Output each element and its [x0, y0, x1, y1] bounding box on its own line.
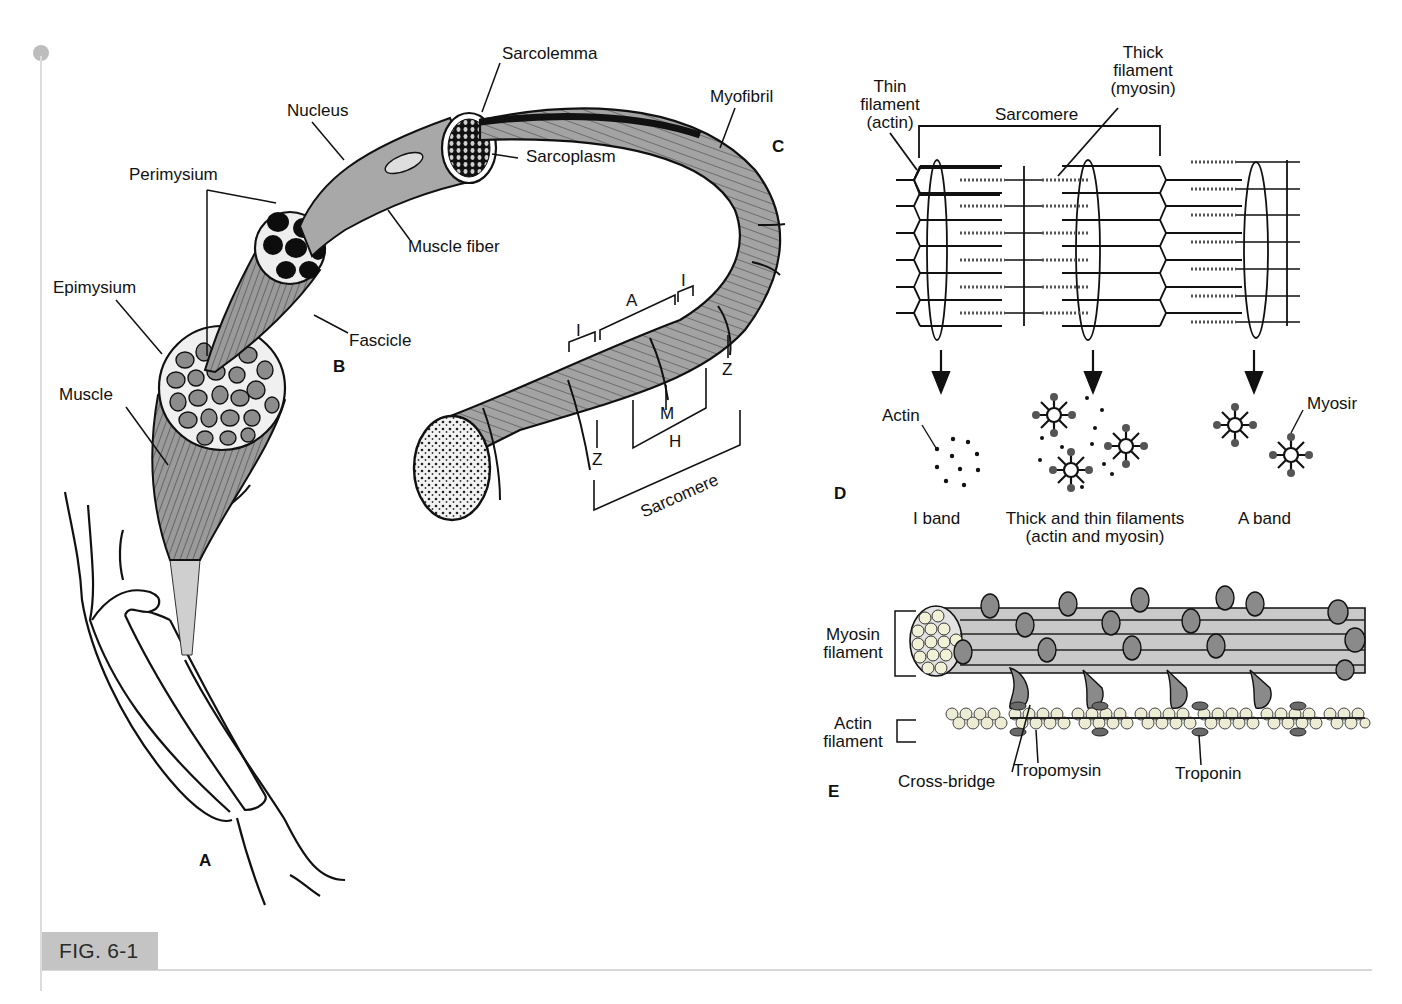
myosin-filament-line2: filament	[815, 644, 891, 662]
panel-letter-d: D	[834, 484, 846, 504]
tendon	[170, 560, 200, 655]
label-fascicle: Fascicle	[349, 332, 411, 350]
label-actin-filament: Actin filament	[815, 715, 891, 751]
myosin-filament-line1: Myosin	[815, 626, 891, 644]
label-tropomyosin: Tropomysin	[1013, 762, 1101, 780]
panel-letter-e: E	[828, 782, 839, 802]
thin-filament-line3: (actin)	[850, 114, 930, 132]
label-sarcoplasm: Sarcoplasm	[526, 148, 616, 166]
thick-filament-line2: filament	[1100, 62, 1186, 80]
thick-filament-cores	[1005, 162, 1300, 322]
label-thick-filament: Thick filament (myosin)	[1100, 44, 1186, 98]
panel-letter-b: B	[333, 357, 345, 377]
label-overlap-zone: Thick and thin filaments (actin and myos…	[990, 510, 1200, 546]
label-a-band: A	[626, 292, 637, 310]
band-arrows	[933, 350, 1262, 392]
label-myofibril: Myofibril	[710, 88, 773, 106]
thick-filament-line1: Thick	[1100, 44, 1186, 62]
overlap-line2: (actin and myosin)	[990, 528, 1200, 546]
thin-filaments	[896, 166, 1242, 326]
panel-letter-a: A	[199, 851, 211, 871]
label-cross-bridge: Cross-bridge	[898, 773, 995, 791]
label-h-zone: H	[669, 433, 681, 451]
label-i-band-left: I	[576, 322, 581, 340]
label-actin: Actin	[882, 407, 920, 425]
label-i-band: I band	[913, 510, 960, 528]
myosin-stars	[1036, 397, 1309, 488]
label-epimysium: Epimysium	[53, 279, 136, 297]
overlap-line1: Thick and thin filaments	[990, 510, 1200, 528]
label-m-line: M	[660, 405, 674, 423]
label-myosin: Myosir	[1307, 395, 1357, 413]
label-sarcolemma: Sarcolemma	[502, 45, 597, 63]
label-z-right: Z	[722, 361, 732, 379]
panel-letter-c: C	[772, 137, 784, 157]
label-muscle-fiber: Muscle fiber	[408, 238, 500, 256]
label-perimysium: Perimysium	[129, 166, 218, 184]
label-a-band-d: A band	[1238, 510, 1291, 528]
myofibril-cross-section	[414, 416, 490, 520]
label-muscle: Muscle	[59, 386, 113, 404]
label-troponin: Troponin	[1175, 765, 1241, 783]
actin-filament-line1: Actin	[815, 715, 891, 733]
label-sarcomere-d: Sarcomere	[995, 106, 1078, 124]
label-z-left: Z	[592, 451, 602, 469]
label-thin-filament: Thin filament (actin)	[850, 78, 930, 132]
thin-filament-line2: filament	[850, 96, 930, 114]
cross-bridge-heads	[1010, 668, 1271, 709]
label-myosin-filament: Myosin filament	[815, 626, 891, 662]
label-i-band-right: I	[681, 272, 686, 290]
figure-number-badge: FIG. 6-1	[42, 932, 158, 970]
label-nucleus: Nucleus	[287, 102, 348, 120]
actin-filament-line2: filament	[815, 733, 891, 751]
figure-number: FIG. 6-1	[59, 939, 138, 963]
myosin-filament	[910, 586, 1365, 709]
figure-page: Muscle Epimysium A Perimysium Fascicle B…	[0, 0, 1402, 1004]
sarcomere-schematic	[890, 108, 1287, 340]
actin-dots	[935, 437, 980, 487]
thick-filament-line3: (myosin)	[1100, 80, 1186, 98]
thin-filament-line1: Thin	[850, 78, 930, 96]
